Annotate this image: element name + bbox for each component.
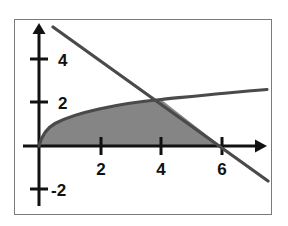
x-tick-label-2: 2 bbox=[96, 160, 105, 179]
y-tick-label-minus-2: -2 bbox=[51, 181, 66, 200]
y-tick-label-4: 4 bbox=[58, 51, 68, 70]
y-axis-arrow-icon bbox=[33, 23, 46, 34]
x-axis-arrow-icon bbox=[255, 140, 267, 153]
y-tick-label-2: 2 bbox=[58, 94, 67, 113]
curve-declining-line bbox=[53, 27, 268, 181]
plot-canvas: 2 4 6 4 2 -2 bbox=[15, 20, 270, 213]
figure-root: 2 4 6 4 2 -2 bbox=[0, 0, 288, 226]
plot-frame: 2 4 6 4 2 -2 bbox=[14, 19, 272, 215]
x-tick-label-6: 6 bbox=[217, 160, 226, 179]
x-tick-label-4: 4 bbox=[156, 160, 166, 179]
